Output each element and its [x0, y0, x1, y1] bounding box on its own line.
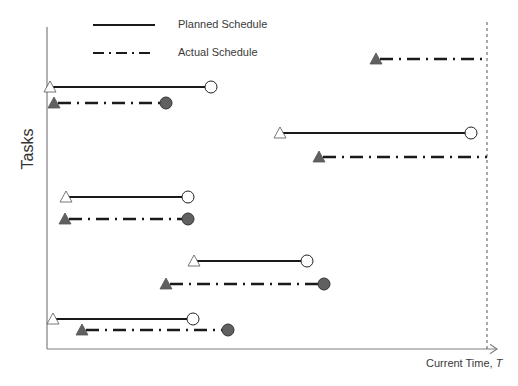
planned-end-circle-icon — [182, 191, 194, 203]
legend-actual-label: Actual Schedule — [178, 46, 258, 58]
task-1 — [44, 81, 217, 109]
task-2 — [274, 127, 487, 162]
actual-end-circle-icon — [182, 213, 194, 225]
planned-end-circle-icon — [301, 255, 313, 267]
task-5 — [47, 313, 234, 336]
actual-end-circle-icon — [318, 278, 330, 290]
task-4 — [160, 255, 330, 290]
legend-planned-label: Planned Schedule — [178, 18, 267, 30]
tasks-layer — [44, 53, 487, 336]
task-3 — [59, 191, 194, 225]
task-6 — [370, 53, 487, 64]
actual-end-circle-icon — [160, 97, 172, 109]
x-axis-label: Current Time, T — [426, 357, 502, 369]
planned-end-circle-icon — [205, 81, 217, 93]
planned-end-circle-icon — [187, 313, 199, 325]
x-axis-label-var: T — [496, 357, 503, 369]
x-axis-label-text: Current Time, — [426, 357, 496, 369]
schedule-diagram — [0, 0, 518, 386]
actual-end-circle-icon — [222, 324, 234, 336]
y-axis-label: Tasks — [19, 119, 37, 179]
planned-end-circle-icon — [465, 127, 477, 139]
